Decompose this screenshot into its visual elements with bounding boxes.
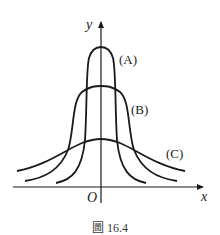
- diagram-figure: y x O (A) (B) (C) 圖 16.4: [0, 0, 220, 235]
- bell-curves-plot: y x O (A) (B) (C): [0, 0, 220, 235]
- origin-label: O: [87, 190, 97, 205]
- curve-a-label: (A): [119, 52, 137, 67]
- curve-c-label: (C): [166, 146, 183, 161]
- figure-caption: 圖 16.4: [0, 218, 220, 235]
- x-axis-label: x: [200, 189, 208, 204]
- curve-b-label: (B): [131, 102, 148, 117]
- y-axis-label: y: [84, 17, 93, 32]
